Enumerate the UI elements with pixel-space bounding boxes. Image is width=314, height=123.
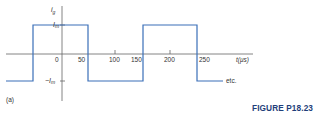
level-high-label: Im — [53, 21, 59, 29]
tick-label-0: 0 — [55, 56, 59, 63]
x-axis-label: t(μs) — [236, 56, 249, 64]
y-axis-label: ig — [51, 6, 56, 15]
level-low-label: −Im — [45, 77, 55, 85]
figure-caption: FIGURE P18.23 — [252, 103, 313, 113]
tick-label-50: 50 — [78, 56, 86, 63]
tick-label-100: 100 — [109, 56, 120, 63]
panel-label: (a) — [6, 96, 14, 104]
tick-label-150: 150 — [131, 56, 142, 63]
tick-label-250: 250 — [199, 56, 210, 63]
continuation-label: etc. — [226, 77, 237, 84]
square-wave-figure: ig Im −Im 0 50 100 150 200 250 t(μs) etc… — [0, 0, 314, 123]
tick-label-200: 200 — [164, 56, 175, 63]
square-waveform — [6, 25, 223, 81]
